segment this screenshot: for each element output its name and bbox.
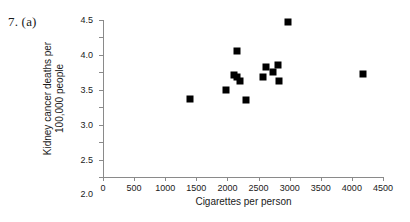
data-point: [285, 18, 292, 25]
y-axis-tick: 2.0: [99, 107, 103, 108]
x-axis-tick: [103, 177, 104, 181]
y-axis-tick-label: 4.0: [80, 50, 93, 60]
y-axis-tick-label: 3.0: [80, 120, 93, 130]
problem-label: 7. (a): [8, 14, 37, 30]
y-axis-tick: 3.5: [99, 55, 103, 56]
x-axis-tick: [134, 177, 135, 181]
data-point: [222, 86, 229, 93]
x-axis-tick-label: 1000: [155, 183, 175, 193]
data-point: [276, 78, 283, 85]
data-point: [243, 97, 250, 104]
y-axis-title-line-1: Kidney cancer deaths per: [43, 42, 54, 155]
data-point: [360, 71, 367, 78]
y-axis-tick: 1.5: [99, 125, 103, 126]
x-axis-tick: [321, 177, 322, 181]
y-axis-tick: 1.0: [99, 142, 103, 143]
y-axis-title-text: Kidney cancer deaths per 100,000 people: [43, 42, 66, 155]
data-point: [236, 78, 243, 85]
x-axis-tick-label: 4500: [373, 183, 393, 193]
data-point: [187, 95, 194, 102]
y-axis-title: Kidney cancer deaths per 100,000 people: [41, 20, 67, 177]
y-axis-tick: 4.0: [99, 37, 103, 38]
x-axis-tick: [290, 177, 291, 181]
y-axis-tick: 4.5: [99, 20, 103, 21]
data-point: [263, 64, 270, 71]
figure-container: 7. (a) Kidney cancer deaths per 100,000 …: [0, 0, 410, 222]
x-axis-tick-label: 4000: [342, 183, 362, 193]
x-axis-tick: [165, 177, 166, 181]
x-axis-tick: [196, 177, 197, 181]
x-axis-tick-label: 2500: [249, 183, 269, 193]
data-point: [270, 68, 277, 75]
x-axis-title: Cigarettes per person: [103, 196, 384, 207]
plot-area: 0.00.51.01.52.02.53.03.54.04.50500100015…: [103, 20, 383, 177]
y-axis-tick-label: 4.5: [80, 15, 93, 25]
x-axis-tick: [227, 177, 228, 181]
x-axis-tick-label: 3000: [280, 183, 300, 193]
y-axis-title-line-2: 100,000 people: [54, 64, 65, 133]
y-axis-tick-label: 3.5: [80, 85, 93, 95]
data-point: [275, 61, 282, 68]
y-axis-tick-label: 2.5: [80, 155, 93, 165]
y-axis-tick: 2.5: [99, 90, 103, 91]
x-axis-tick-label: 0: [100, 183, 105, 193]
y-axis-tick: 0.5: [99, 160, 103, 161]
x-axis-tick-label: 1500: [186, 183, 206, 193]
x-axis-tick: [259, 177, 260, 181]
data-point: [259, 73, 266, 80]
x-axis-tick-label: 500: [127, 183, 142, 193]
y-axis-tick-label: 2.0: [80, 189, 93, 199]
x-axis-tick-label: 2000: [217, 183, 237, 193]
y-axis-tick: 3.0: [99, 72, 103, 73]
x-axis-tick-label: 3500: [311, 183, 331, 193]
x-axis-tick: [352, 177, 353, 181]
x-axis-tick: [383, 177, 384, 181]
x-axis-line: [103, 177, 384, 178]
data-point: [233, 48, 240, 55]
